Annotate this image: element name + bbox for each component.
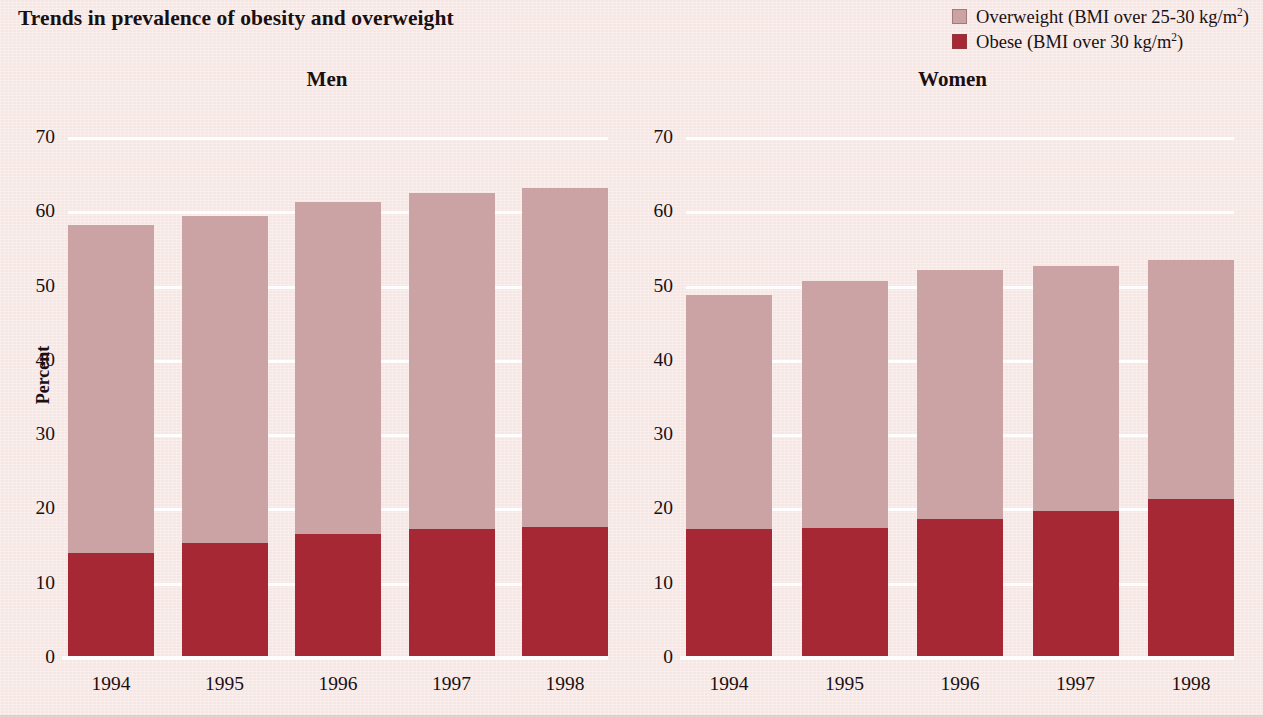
y-tick-label-40: 40 bbox=[36, 349, 56, 371]
x-tick-label-1997: 1997 bbox=[432, 673, 471, 695]
y-tick-label-0: 0 bbox=[663, 646, 673, 668]
bar-segment-obese[interactable] bbox=[1148, 499, 1234, 657]
legend-label-overweight: Overweight (BMI over 25-30 kg/m2) bbox=[976, 6, 1249, 28]
bar-group-1995[interactable]: 1995 bbox=[182, 137, 268, 657]
x-axis-line-women bbox=[680, 656, 1234, 660]
bar-group-1994[interactable]: 1994 bbox=[68, 137, 154, 657]
x-tick-label-1998: 1998 bbox=[1172, 673, 1211, 695]
x-tick-label-1995: 1995 bbox=[205, 673, 244, 695]
y-tick-label-20: 20 bbox=[654, 497, 674, 519]
bar-segment-obese[interactable] bbox=[295, 534, 381, 657]
bar-segment-overweight[interactable] bbox=[68, 225, 154, 553]
y-tick-label-50: 50 bbox=[654, 275, 674, 297]
figure-page: Trends in prevalence of obesity and over… bbox=[0, 0, 1263, 717]
bar-segment-obese[interactable] bbox=[686, 529, 772, 658]
bar-group-1998[interactable]: 1998 bbox=[522, 137, 608, 657]
bar-series-women: 19941995199619971998 bbox=[686, 137, 1234, 657]
bar-segment-overweight[interactable] bbox=[182, 216, 268, 543]
y-tick-label-40: 40 bbox=[654, 349, 674, 371]
x-tick-label-1994: 1994 bbox=[710, 673, 749, 695]
y-tick-label-10: 10 bbox=[654, 572, 674, 594]
bar-group-1996[interactable]: 1996 bbox=[295, 137, 381, 657]
plot-area-women: 706050403020100 19941995199619971998 bbox=[686, 137, 1234, 657]
bar-segment-overweight[interactable] bbox=[1033, 266, 1119, 510]
bar-segment-obese[interactable] bbox=[802, 528, 888, 657]
bar-segment-overweight[interactable] bbox=[686, 295, 772, 529]
x-tick-label-1996: 1996 bbox=[319, 673, 358, 695]
bar-group-1996[interactable]: 1996 bbox=[917, 137, 1003, 657]
bar-segment-overweight[interactable] bbox=[917, 270, 1003, 519]
x-tick-label-1994: 1994 bbox=[92, 673, 131, 695]
legend: Overweight (BMI over 25-30 kg/m2) Obese … bbox=[952, 6, 1249, 53]
bar-segment-overweight[interactable] bbox=[409, 193, 495, 530]
y-tick-label-70: 70 bbox=[654, 126, 674, 148]
x-tick-label-1998: 1998 bbox=[546, 673, 585, 695]
legend-swatch-obese bbox=[952, 34, 967, 49]
y-tick-label-30: 30 bbox=[654, 423, 674, 445]
bar-segment-obese[interactable] bbox=[68, 553, 154, 657]
y-tick-label-10: 10 bbox=[36, 572, 56, 594]
bar-group-1995[interactable]: 1995 bbox=[802, 137, 888, 657]
bar-group-1998[interactable]: 1998 bbox=[1148, 137, 1234, 657]
x-tick-label-1995: 1995 bbox=[825, 673, 864, 695]
y-tick-label-20: 20 bbox=[36, 497, 56, 519]
y-tick-label-60: 60 bbox=[654, 200, 674, 222]
bar-segment-obese[interactable] bbox=[182, 543, 268, 657]
legend-item-overweight: Overweight (BMI over 25-30 kg/m2) bbox=[952, 6, 1249, 28]
page-title: Trends in prevalence of obesity and over… bbox=[18, 6, 454, 31]
bar-segment-overweight[interactable] bbox=[802, 281, 888, 528]
y-tick-label-50: 50 bbox=[36, 275, 56, 297]
legend-label-obese: Obese (BMI over 30 kg/m2) bbox=[976, 31, 1183, 53]
legend-item-obese: Obese (BMI over 30 kg/m2) bbox=[952, 31, 1249, 53]
bar-segment-obese[interactable] bbox=[1033, 511, 1119, 657]
panel-title-men: Men bbox=[0, 67, 628, 92]
bar-segment-overweight[interactable] bbox=[295, 202, 381, 533]
bar-group-1997[interactable]: 1997 bbox=[409, 137, 495, 657]
x-tick-label-1996: 1996 bbox=[941, 673, 980, 695]
x-tick-label-1997: 1997 bbox=[1056, 673, 1095, 695]
y-tick-label-0: 0 bbox=[45, 646, 55, 668]
bar-segment-obese[interactable] bbox=[917, 519, 1003, 657]
bar-group-1997[interactable]: 1997 bbox=[1033, 137, 1119, 657]
chart-panel-men: Men Percent 706050403020100 199419951996… bbox=[0, 55, 628, 695]
y-tick-label-70: 70 bbox=[36, 126, 56, 148]
bar-segment-obese[interactable] bbox=[409, 529, 495, 657]
y-tick-label-60: 60 bbox=[36, 200, 56, 222]
bar-series-men: 19941995199619971998 bbox=[68, 137, 608, 657]
chart-panel-women: Women 706050403020100 199419951996199719… bbox=[628, 55, 1263, 695]
bar-segment-obese[interactable] bbox=[522, 527, 608, 657]
legend-swatch-overweight bbox=[952, 9, 967, 24]
panel-title-women: Women bbox=[628, 67, 1263, 92]
x-axis-line-men bbox=[62, 656, 608, 660]
bar-segment-overweight[interactable] bbox=[1148, 260, 1234, 499]
plot-area-men: 706050403020100 19941995199619971998 bbox=[68, 137, 608, 657]
bar-segment-overweight[interactable] bbox=[522, 188, 608, 527]
y-tick-label-30: 30 bbox=[36, 423, 56, 445]
bar-group-1994[interactable]: 1994 bbox=[686, 137, 772, 657]
